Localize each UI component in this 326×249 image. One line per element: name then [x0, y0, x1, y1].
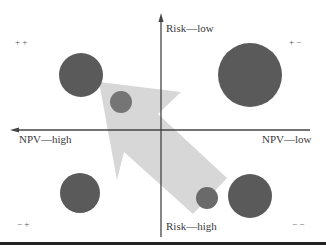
- quadrant-label-bottom-right: − −: [292, 219, 304, 229]
- quadrant-label-bottom-left: − +: [17, 219, 29, 229]
- y-axis-arrowhead-icon: [159, 13, 164, 22]
- bubble-top-left-large: [59, 53, 103, 97]
- quadrant-label-top-left: + +: [15, 37, 27, 47]
- bottom-border: [0, 242, 326, 245]
- bubble-top-left-small: [110, 91, 132, 113]
- bubble-top-right-large: [218, 43, 282, 107]
- x-axis-right-label: NPV—low: [262, 133, 312, 145]
- y-axis-bottom-label: Risk—high: [166, 220, 217, 232]
- y-axis-top-label: Risk—low: [166, 22, 214, 34]
- bubble-bottom-right-large: [228, 174, 272, 218]
- bubble-bottom-right-small: [196, 187, 218, 209]
- quadrant-label-top-right: + −: [289, 37, 301, 47]
- npv-risk-bubble-diagram: Risk—low Risk—high NPV—high NPV—low + + …: [0, 0, 326, 249]
- x-axis-left-label: NPV—high: [19, 133, 72, 145]
- x-axis-arrowhead-icon: [10, 128, 19, 133]
- bubble-bottom-left: [60, 173, 100, 213]
